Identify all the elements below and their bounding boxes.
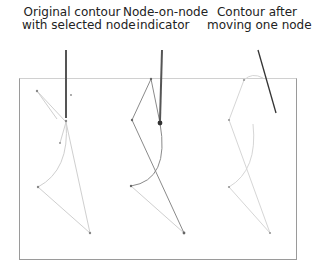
node [131,119,133,121]
node [228,186,230,188]
panel-original-nodes [36,90,91,234]
node [269,232,271,234]
node-on-node-indicator [158,121,163,126]
node [89,232,91,234]
node [36,90,38,92]
panel-moved-contour [229,75,270,233]
control-point [70,94,72,96]
node [150,78,152,80]
panel-moved-nodes [228,79,271,234]
panel-original-contour [37,91,90,233]
control-point [59,142,61,144]
leader-line-middle [160,50,162,121]
selected-node [65,120,67,122]
diagram-canvas [0,0,317,265]
node [228,119,230,121]
node [130,185,132,187]
node [37,186,39,188]
panel-node-on-node [131,79,184,233]
leader-line-right [258,50,276,113]
panel-node-on-node-nodes [130,78,186,235]
node [183,232,186,235]
node [243,79,245,81]
